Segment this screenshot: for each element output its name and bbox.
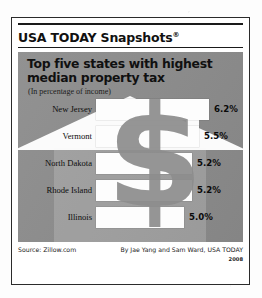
source-credit: Source: Zillow.com (18, 246, 76, 253)
bar-rows: New Jersey 6.2% Vermont 5.5% North Dakot… (18, 99, 243, 234)
table-row: Illinois 5.0% (18, 207, 243, 228)
row-value: 5.2% (197, 180, 221, 201)
row-label: North Dakota (18, 153, 92, 174)
row-value: 5.0% (189, 207, 213, 228)
chart-panel: Top five states with highest median prop… (18, 52, 243, 242)
row-label: Rhode Island (18, 180, 92, 201)
row-bar (96, 99, 209, 120)
snapshot-figure: USA TODAY Snapshots® Top five states wit… (11, 17, 250, 285)
row-bar (96, 180, 192, 201)
row-bar (96, 207, 184, 228)
figure-footer: Source: Zillow.com By Jae Yang and Sam W… (18, 246, 243, 274)
table-row: North Dakota 5.2% (18, 153, 243, 174)
row-label: New Jersey (18, 99, 92, 120)
masthead-rule-bottom (18, 47, 243, 48)
chart-headline: Top five states with highest median prop… (27, 57, 235, 85)
row-label: Illinois (18, 207, 92, 228)
copyright-year: 2008 (229, 256, 243, 262)
brand-title: USA TODAY Snapshots® (18, 28, 243, 45)
masthead-rule-top (18, 23, 243, 25)
masthead: USA TODAY Snapshots® (18, 23, 243, 49)
chart-subhead: (In percentage of income) (28, 87, 111, 96)
byline-credit: By Jae Yang and Sam Ward, USA TODAY (120, 246, 243, 253)
row-bar (96, 126, 199, 147)
brand-name: USA TODAY Snapshots (18, 30, 172, 45)
row-label: Vermont (18, 126, 92, 147)
table-row: Rhode Island 5.2% (18, 180, 243, 201)
row-bar (96, 153, 192, 174)
row-value: 5.5% (204, 126, 228, 147)
row-value: 6.2% (214, 99, 238, 120)
table-row: Vermont 5.5% (18, 126, 243, 147)
table-row: New Jersey 6.2% (18, 99, 243, 120)
registered-mark-icon: ® (172, 31, 179, 39)
row-value: 5.2% (197, 153, 221, 174)
